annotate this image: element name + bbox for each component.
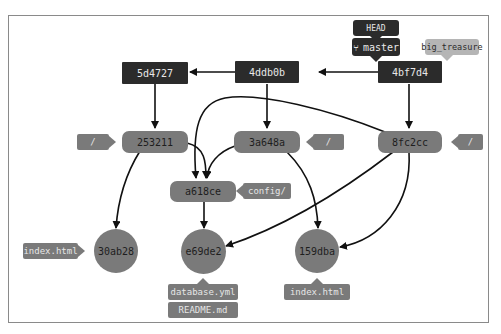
edge-253211-a618ce: [187, 143, 206, 178]
git-branch-icon: ⑂: [353, 42, 359, 53]
commit-id: 5d4727: [137, 68, 173, 79]
tree-label-a618ce: config/: [243, 183, 291, 199]
blob-id: 159dba: [299, 246, 335, 257]
path-label: /: [90, 137, 95, 147]
blob-node-30ab28[interactable]: 30ab28: [94, 229, 138, 273]
tree-node-a618ce[interactable]: a618ce: [170, 181, 236, 202]
tree-label-8fc2cc: /: [458, 134, 483, 150]
head-ref[interactable]: HEAD: [353, 20, 399, 36]
tree-label-3a648a: /: [313, 134, 344, 150]
branch-label: master: [363, 42, 399, 53]
commit-node-4bf7d4[interactable]: 4bf7d4: [378, 61, 442, 83]
path-label: /: [468, 137, 473, 147]
tree-label-253211: /: [77, 134, 109, 150]
edge-3a648a-159dba: [287, 152, 318, 228]
file-label: index.html: [290, 287, 344, 297]
path-label: /: [326, 137, 331, 147]
tree-id: a618ce: [185, 186, 221, 197]
commit-id: 4ddb0b: [249, 67, 285, 78]
tree-id: 3a648a: [249, 137, 285, 148]
blob-id: e69de2: [185, 246, 221, 257]
commit-node-5d4727[interactable]: 5d4727: [122, 62, 188, 84]
blob-label-e69de2-database: database.yml: [168, 284, 238, 300]
file-label: README.md: [179, 305, 228, 315]
tree-node-253211[interactable]: 253211: [122, 131, 188, 153]
file-label: index.html: [23, 246, 77, 256]
path-label: config/: [248, 186, 286, 196]
blob-node-e69de2[interactable]: e69de2: [181, 229, 226, 274]
tag-label: big_treasure: [421, 42, 482, 52]
tag-ref-big-treasure[interactable]: big_treasure: [425, 39, 479, 55]
head-label: HEAD: [366, 24, 385, 33]
blob-label-e69de2-readme: README.md: [168, 302, 238, 318]
edge-3a648a-a618ce: [207, 146, 235, 178]
file-label: database.yml: [170, 287, 235, 297]
tree-node-3a648a[interactable]: 3a648a: [234, 131, 300, 153]
tree-node-8fc2cc[interactable]: 8fc2cc: [378, 131, 442, 153]
branch-ref-master[interactable]: ⑂ master: [352, 38, 400, 56]
blob-node-159dba[interactable]: 159dba: [295, 229, 339, 273]
commit-id: 4bf7d4: [392, 67, 428, 78]
blob-label-30ab28: index.html: [23, 243, 78, 259]
tree-id: 253211: [137, 137, 173, 148]
blob-label-159dba: index.html: [284, 284, 350, 300]
blob-id: 30ab28: [98, 246, 134, 257]
commit-node-4ddb0b[interactable]: 4ddb0b: [235, 61, 299, 83]
tree-id: 8fc2cc: [392, 137, 428, 148]
edge-253211-30ab28: [116, 151, 140, 228]
